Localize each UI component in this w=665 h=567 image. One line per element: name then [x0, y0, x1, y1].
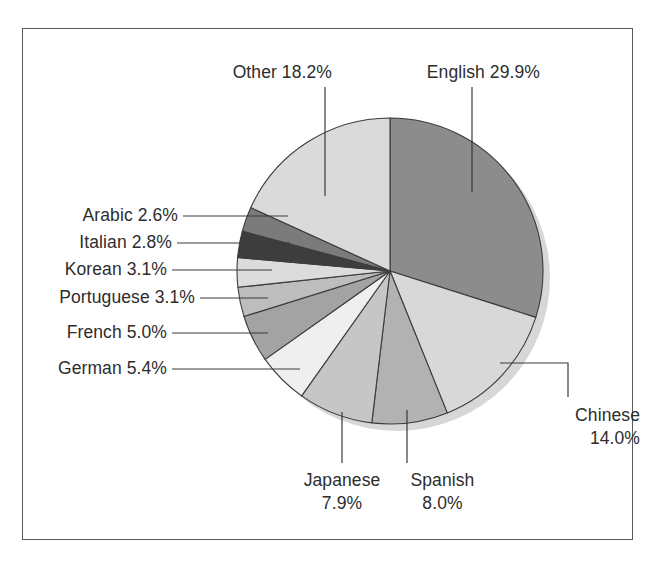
slice-label-french: French 5.0%: [0, 322, 167, 343]
slice-label-other: Other 18.2%: [128, 62, 332, 83]
slice-label-italian: Italian 2.8%: [0, 232, 172, 253]
pie-slices-group: [237, 118, 543, 424]
slice-label-portuguese: Portuguese 3.1%: [0, 287, 195, 308]
slice-label-spanish-value: 8.0%: [380, 493, 505, 514]
slice-label-chinese-value: 14.0%: [520, 428, 640, 449]
slice-label-spanish-name: Spanish: [380, 470, 505, 491]
slice-label-english: English 29.9%: [380, 62, 540, 83]
slice-label-chinese-name: Chinese: [520, 405, 640, 426]
pie-chart-figure: Other 18.2% English 29.9% Arabic 2.6% It…: [0, 0, 665, 567]
slice-label-arabic: Arabic 2.6%: [0, 205, 178, 226]
slice-label-german: German 5.4%: [0, 358, 167, 379]
slice-label-korean: Korean 3.1%: [0, 259, 167, 280]
